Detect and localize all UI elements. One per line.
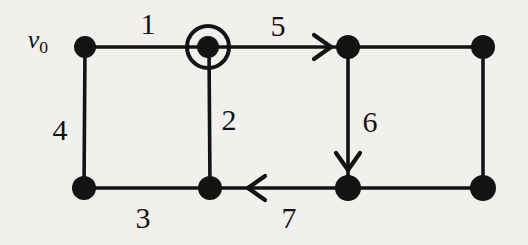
graph-figure: 1234567v0 [0, 0, 528, 245]
edge-4 [84, 47, 85, 188]
edge-label-6: 6 [363, 107, 378, 137]
vertex-dot [470, 175, 496, 201]
edge-label-4: 4 [53, 115, 68, 145]
vertex-dot [336, 35, 360, 59]
vertex-label-base: v [28, 25, 40, 54]
vertex-bottom-mid-right [335, 175, 361, 201]
vertex-label-v0: v0 [28, 27, 48, 57]
edge-label-2: 2 [222, 105, 237, 135]
vertex-bottom-right [470, 175, 496, 201]
edge-label-1: 1 [141, 9, 156, 39]
graph-canvas [0, 0, 528, 245]
edges-layer [84, 47, 483, 188]
edge-label-7: 7 [282, 203, 297, 233]
arrows-layer [248, 35, 360, 200]
vertex-dot [198, 176, 222, 200]
vertex-label-subscript: 0 [39, 37, 48, 57]
edge-label-3: 3 [136, 203, 151, 233]
vertex-dot [335, 175, 361, 201]
vertex-dot [197, 36, 219, 58]
edge-label-5: 5 [271, 11, 286, 41]
vertices-layer [72, 26, 496, 201]
vertex-top-right [471, 35, 495, 59]
vertex-dot [72, 176, 96, 200]
vertex-dot [74, 36, 96, 58]
vertex-dot [471, 35, 495, 59]
vertex-top-mid-right [336, 35, 360, 59]
vertex-bottom-mid-left [198, 176, 222, 200]
vertex-bottom-left [72, 176, 96, 200]
vertex-top-left [74, 36, 96, 58]
